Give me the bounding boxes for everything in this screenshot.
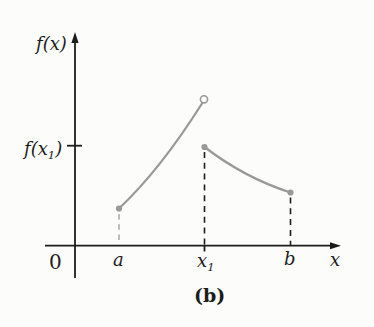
a-label: a — [113, 249, 124, 270]
point-x1-fx1 — [201, 144, 207, 150]
open-circle-left-limit — [200, 96, 207, 103]
b-label: b — [284, 248, 296, 269]
x-axis-label: x — [330, 249, 340, 270]
figure-panel-b: f(x) f(x1) 0 a x1 b x (b) — [0, 0, 374, 327]
curve-left-branch — [119, 104, 202, 209]
fx1-label-pre: f(x — [22, 138, 48, 159]
curve-right-branch — [205, 147, 291, 193]
point-b — [287, 189, 293, 195]
point-a — [116, 205, 122, 211]
x1-label-pre: x — [197, 250, 207, 271]
x1-label-sub: 1 — [207, 260, 214, 274]
fx1-label-post: ) — [54, 138, 62, 159]
y-axis-arrow-icon — [71, 32, 78, 43]
x1-label: x1 — [197, 250, 214, 274]
origin-label: 0 — [49, 250, 62, 274]
y-axis-label: f(x) — [34, 33, 67, 54]
fx1-label-sub: 1 — [48, 148, 55, 162]
figure-caption: (b) — [194, 284, 225, 306]
fx1-label: f(x1) — [22, 138, 62, 162]
